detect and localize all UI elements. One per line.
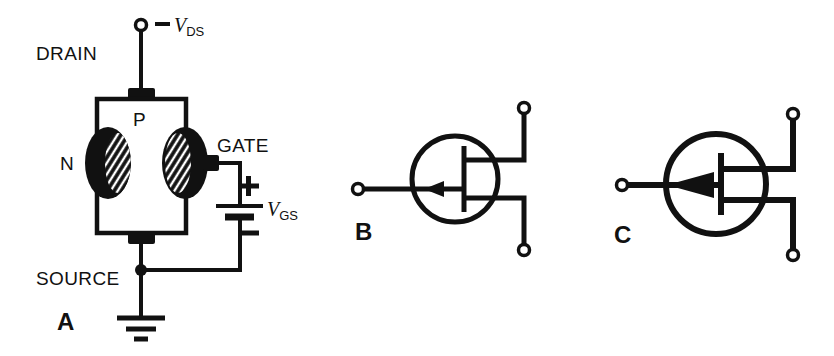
ground-symbol	[117, 318, 165, 339]
vds-label-sub: DS	[186, 24, 204, 39]
symbol-c-gate-arrowhead	[667, 172, 714, 198]
n-region-left-hatch	[105, 133, 131, 193]
symbol-b-drain-terminal	[519, 103, 530, 114]
n-region-left	[85, 127, 131, 199]
panel-c-label: C	[614, 221, 631, 248]
panel-a-group: DRAIN SOURCE GATE P N VDS VGS A	[36, 14, 298, 339]
panel-b-label: B	[355, 218, 372, 245]
figure-root: DRAIN SOURCE GATE P N VDS VGS A	[0, 0, 834, 356]
vgs-label-sub: GS	[279, 208, 298, 223]
battery-vgs	[216, 206, 263, 217]
gate-contact-tab	[203, 155, 219, 171]
symbol-b-source-terminal	[519, 245, 530, 256]
symbol-b-source-lead	[464, 198, 524, 244]
symbol-b-gate-terminal	[353, 184, 364, 195]
symbol-b-gate-arrowhead	[424, 181, 444, 197]
n-region-right	[162, 127, 219, 199]
drain-terminal-circle	[136, 20, 147, 31]
figure-canvas: DRAIN SOURCE GATE P N VDS VGS A	[0, 0, 834, 356]
source-junction-dot	[135, 264, 147, 276]
symbol-b-envelope-circle	[412, 136, 498, 222]
gate-return-wire	[141, 218, 240, 270]
symbol-b-drain-lead	[464, 114, 524, 160]
symbol-c-source-terminal	[788, 250, 799, 261]
vgs-label: VGS	[267, 198, 298, 223]
symbol-c-drain-terminal	[788, 109, 799, 120]
drain-label: DRAIN	[36, 43, 97, 64]
gate-lead-wire	[217, 163, 240, 205]
source-label: SOURCE	[36, 268, 120, 289]
panel-b-group: B	[353, 103, 530, 256]
symbol-c-gate-terminal	[617, 180, 628, 191]
p-region-label: P	[133, 109, 146, 130]
n-region-right-hatch	[165, 133, 191, 193]
panel-a-label: A	[57, 308, 74, 335]
gate-label: GATE	[217, 135, 269, 156]
vds-label: VDS	[174, 14, 205, 39]
symbol-c-drain-lead	[721, 120, 793, 169]
panel-c-group: C	[614, 109, 799, 261]
n-region-label: N	[60, 153, 74, 174]
